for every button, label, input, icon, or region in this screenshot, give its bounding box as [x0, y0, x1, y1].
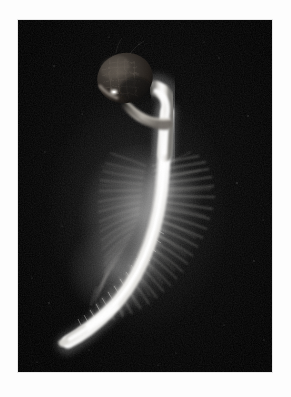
- seedling-photograph: [18, 20, 272, 372]
- image-figure: Germinating seedling on black background: [0, 0, 291, 397]
- photo-grain-overlay: [18, 20, 272, 372]
- photograph-plate: [18, 20, 272, 372]
